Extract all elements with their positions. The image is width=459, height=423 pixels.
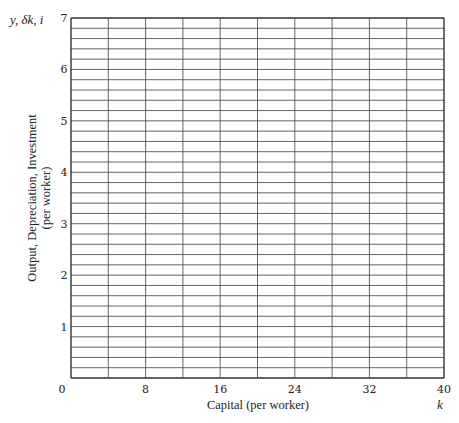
x-tick-label: 0	[59, 383, 66, 396]
x-tick-label: 40	[437, 383, 451, 396]
x-tick-label: 8	[142, 383, 149, 396]
y-tick-label: 6	[61, 63, 68, 76]
x-tick-label: 24	[288, 383, 302, 396]
y-axis-title: Output, Depreciation, Investment (per wo…	[25, 114, 53, 282]
y-tick-label: 7	[61, 12, 68, 25]
y-axis-title-line2: (per worker)	[39, 167, 53, 230]
y-axis-ticks: 1234567	[61, 12, 68, 334]
y-tick-label: 3	[61, 218, 68, 231]
y-axis-title-line1: Output, Depreciation, Investment	[25, 114, 39, 282]
x-tick-label: 32	[362, 383, 376, 396]
y-tick-label: 1	[61, 321, 68, 334]
grid-lines	[71, 18, 444, 378]
chart-canvas: 0816243240 1234567 y, δk, i k Capital (p…	[0, 0, 459, 423]
x-axis-title: Capital (per worker)	[207, 398, 309, 412]
x-axis-ticks: 0816243240	[59, 383, 452, 396]
x-variable-label: k	[437, 397, 443, 412]
y-tick-label: 2	[61, 269, 68, 282]
y-tick-label: 5	[61, 115, 68, 128]
y-variables-label: y, δk, i	[8, 12, 44, 27]
y-tick-label: 4	[61, 166, 68, 179]
x-tick-label: 16	[213, 383, 227, 396]
